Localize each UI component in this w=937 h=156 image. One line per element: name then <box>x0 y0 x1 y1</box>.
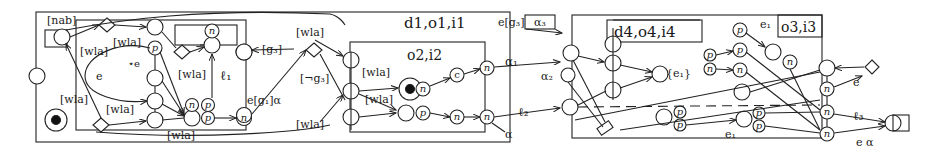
svg-text:n: n <box>484 111 490 122</box>
e-g3-label: e[g₃] <box>498 16 525 29</box>
e-g1-alpha-label: e[g₁]α <box>247 94 282 107</box>
d4-o4-i4-label: d4,o4,i4 <box>614 23 676 41</box>
g3-guard-label: [g₃] <box>262 43 282 56</box>
star-e-label: ⋆e <box>128 58 140 69</box>
svg-text:n: n <box>241 112 247 123</box>
svg-text:n: n <box>420 83 426 94</box>
svg-text:p: p <box>737 24 744 35</box>
wla-label: [wla] <box>296 26 324 39</box>
event-e-label: e <box>96 70 103 83</box>
svg-text:n: n <box>824 106 830 117</box>
wla-label: [wla] <box>60 93 88 106</box>
state-nab <box>54 29 70 45</box>
svg-text:p: p <box>737 44 744 55</box>
state-left-entry <box>29 68 45 84</box>
svg-text:n: n <box>737 64 743 75</box>
svg-text:c: c <box>454 69 460 80</box>
l3-label: ℓ₃ <box>853 109 864 123</box>
e1-bottom-label: e₁ <box>725 128 736 141</box>
svg-text:p: p <box>205 112 212 123</box>
wla-label: [wla] <box>113 36 141 49</box>
svg-text:p: p <box>677 119 684 130</box>
svg-text:n: n <box>209 25 215 36</box>
alpha3-label: α₃ <box>534 16 546 29</box>
svg-text:n: n <box>824 83 830 94</box>
alpha1-label: α₁ <box>505 55 518 69</box>
wla-label: [wla] <box>106 103 134 116</box>
svg-text:n: n <box>787 56 793 67</box>
svg-text:p: p <box>756 120 763 131</box>
o2-i2-label: o2,i2 <box>407 47 442 63</box>
svg-text:n: n <box>454 111 460 122</box>
l2-label: ℓ₂ <box>518 105 529 119</box>
svg-text:p: p <box>205 99 212 110</box>
o3-i3-label: o3,i3 <box>781 19 816 35</box>
wla-label: [wla] <box>362 66 390 79</box>
svg-text:n: n <box>189 99 195 110</box>
diagram-svg: [nab] [wla] [wla] [wla] [wla] [wla] [wla… <box>0 0 937 156</box>
svg-text:p: p <box>677 106 684 117</box>
initial-state-dot <box>52 116 61 125</box>
svg-text:n: n <box>707 63 713 74</box>
wla-label: [wla] <box>167 129 195 142</box>
d1-o1-i1-label: d1,o1,i1 <box>404 14 466 32</box>
wla-label: [wla] <box>296 118 324 131</box>
choice-diamond-g3 <box>306 43 322 57</box>
svg-text:p: p <box>420 107 427 118</box>
wla-label: [wla] <box>365 93 393 106</box>
wla-label: [wla] <box>80 45 108 58</box>
choice-diamond-mid <box>174 45 190 59</box>
statechart-diagram: [nab] [wla] [wla] [wla] [wla] [wla] [wla… <box>0 0 937 156</box>
svg-text:p: p <box>707 49 714 60</box>
nab-label: [nab] <box>47 14 76 27</box>
e1-top-label: e₁ <box>760 18 771 31</box>
svg-text:n: n <box>824 128 830 139</box>
event-e-right-label: e <box>853 76 860 89</box>
wla-label: [wla] <box>178 68 206 81</box>
svg-text:n: n <box>484 62 490 73</box>
l1-label: ℓ₁ <box>220 68 231 83</box>
not-g3-guard-label: [¬g₃] <box>300 72 329 85</box>
e-alpha-label: e α <box>856 136 874 149</box>
svg-text:p: p <box>152 42 159 53</box>
alpha-label: α <box>505 128 513 141</box>
e1-set-label: {e₁} <box>666 67 691 80</box>
alpha2-label: α₂ <box>541 70 553 83</box>
svg-text:p: p <box>756 107 763 118</box>
